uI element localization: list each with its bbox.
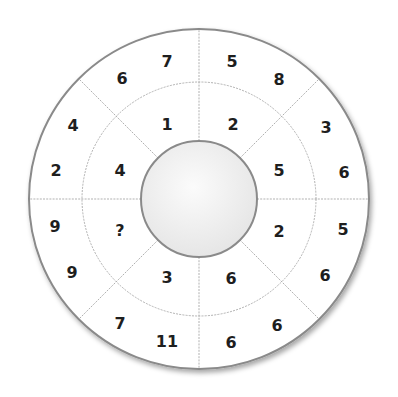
cell-number: 2 [273,224,284,240]
cell-number: 6 [271,318,282,334]
cell-number: 5 [337,222,348,238]
cell-number: 9 [66,265,77,281]
cell-number: 5 [226,54,237,70]
cell-number: 4 [114,163,125,179]
cell-number: 6 [225,271,236,287]
number-wheel [0,0,398,397]
cell-number: 7 [161,54,172,70]
cell-number: 11 [156,334,178,350]
cell-number: 2 [50,163,61,179]
cell-number: 6 [319,268,330,284]
center-hub [141,141,257,257]
cell-number: 6 [225,335,236,351]
cell-number: 2 [227,117,238,133]
cell-number: 1 [161,117,172,133]
cell-number: 3 [161,270,172,286]
cell-number: 5 [273,163,284,179]
cell-number: 9 [49,219,60,235]
missing-value: ? [115,223,124,239]
cell-number: 6 [338,165,349,181]
cell-number: 4 [67,118,78,134]
cell-number: 8 [273,72,284,88]
cell-number: 3 [320,120,331,136]
cell-number: 6 [116,71,127,87]
cell-number: 7 [114,316,125,332]
